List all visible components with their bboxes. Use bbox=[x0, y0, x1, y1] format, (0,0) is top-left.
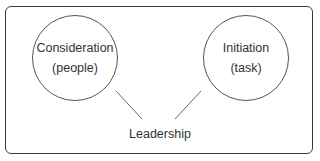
node-consideration-subtitle: (people) bbox=[52, 58, 98, 78]
node-consideration: Consideration (people) bbox=[32, 15, 118, 101]
node-initiation-title: Initiation bbox=[223, 38, 270, 58]
leadership-label: Leadership bbox=[0, 127, 320, 141]
node-initiation: Initiation (task) bbox=[203, 15, 289, 101]
connector-consideration-leadership bbox=[116, 91, 142, 119]
connector-initiation-leadership bbox=[175, 91, 201, 119]
node-initiation-subtitle: (task) bbox=[230, 58, 261, 78]
node-consideration-title: Consideration bbox=[36, 38, 113, 58]
